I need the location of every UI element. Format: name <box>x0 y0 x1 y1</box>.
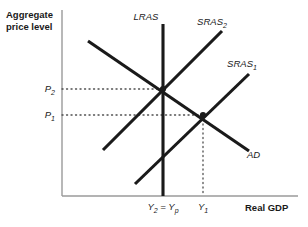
equilibrium-point-short-run-equilibrium <box>200 112 206 118</box>
tick-labels-group: P2P1Y2 = YpY1 <box>45 83 208 214</box>
y-axis-title-line2: price level <box>6 21 52 32</box>
curve-label-AD: AD <box>246 149 260 160</box>
ad-as-diagram: LRASSRAS2SRAS1AD Aggregate price level R… <box>0 0 308 227</box>
y-axis-title-line1: Aggregate <box>6 9 53 20</box>
output-tick-label-Y1: Y1 <box>198 201 208 214</box>
curve-label-SRAS1: SRAS1 <box>227 58 257 71</box>
x-axis-title: Real GDP <box>245 202 289 213</box>
output-tick-label-Y2=Yp: Y2 = Yp <box>147 201 178 215</box>
price-tick-label-P1: P1 <box>45 109 55 122</box>
curves-group <box>88 24 249 196</box>
price-tick-label-P2: P2 <box>45 83 55 96</box>
diagram-canvas: LRASSRAS2SRAS1AD Aggregate price level R… <box>0 0 308 227</box>
curve-SRAS1 <box>135 74 249 184</box>
curve-label-SRAS2: SRAS2 <box>197 16 227 29</box>
equilibrium-point-long-run-equilibrium <box>160 86 166 92</box>
equilibrium-points-group <box>160 86 206 118</box>
curve-label-LRAS: LRAS <box>134 11 159 22</box>
